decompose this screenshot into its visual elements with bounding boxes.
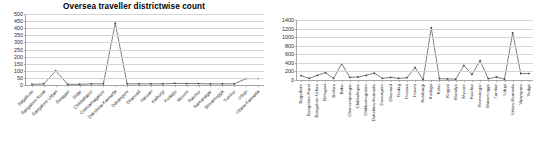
y-tickmark — [295, 63, 297, 64]
data-point-marker — [316, 74, 318, 76]
gridline — [26, 50, 264, 51]
x-tick-label: Uttara-Kannada — [509, 84, 514, 115]
y-tickmark — [295, 29, 297, 30]
y-tickmark — [24, 42, 26, 43]
gridline — [26, 28, 264, 29]
x-tickmark — [139, 85, 140, 87]
y-tickmark — [295, 46, 297, 47]
gridline — [297, 46, 533, 47]
y-tick-label: 400 — [285, 60, 294, 66]
y-tick-label: 0 — [20, 82, 23, 88]
x-tick-label: Shivamogga — [204, 89, 225, 110]
x-tick-label: Kalburgi — [150, 89, 165, 104]
x-tickmark — [358, 80, 359, 82]
data-point-marker — [495, 76, 497, 78]
x-tickmark — [246, 85, 247, 87]
left-chart-title: Oversea traveller districtwise count — [0, 2, 268, 11]
x-tick-label: Dakshina-Kannada — [87, 89, 118, 120]
y-tickmark — [24, 21, 26, 22]
gridline — [297, 29, 533, 30]
x-tickmark — [415, 80, 416, 82]
x-tick-label: Chikkamagalore — [79, 89, 106, 116]
x-tickmark — [529, 80, 530, 82]
right-plot-area — [296, 20, 533, 81]
x-tickmark — [317, 80, 318, 82]
x-tickmark — [407, 80, 408, 82]
x-tickmark — [513, 80, 514, 82]
y-tick-label: 500 — [14, 11, 23, 17]
y-tick-label: 200 — [14, 54, 23, 60]
x-tickmark — [521, 80, 522, 82]
gridline — [26, 57, 264, 58]
x-tickmark — [32, 85, 33, 87]
x-tick-label: Bangalore Urban — [31, 89, 59, 117]
x-tickmark — [91, 85, 92, 87]
x-tickmark — [342, 80, 343, 82]
left-chart-panel: Oversea traveller districtwise count 050… — [0, 0, 268, 148]
x-tick-label: Davangere — [379, 84, 384, 105]
y-tickmark — [24, 78, 26, 79]
x-tickmark — [496, 80, 497, 82]
gridline — [297, 71, 533, 72]
x-tick-label: Vijayapura — [517, 84, 522, 105]
x-tickmark — [210, 85, 211, 87]
y-tickmark — [24, 28, 26, 29]
x-tick-label: Hassan — [139, 89, 153, 103]
y-tickmark — [295, 71, 297, 72]
x-tick-label: Bangalore-Rural — [306, 84, 311, 116]
y-tickmark — [295, 37, 297, 38]
data-point-marker — [357, 76, 359, 78]
x-tick-label: Haveri — [412, 84, 417, 97]
x-tick-label: Kolar — [436, 84, 441, 94]
gridline — [26, 64, 264, 65]
x-tick-label: Ramanagar — [477, 84, 482, 107]
x-tick-label: Bagalkote — [298, 84, 303, 104]
x-tick-label: Davangere — [111, 89, 130, 108]
x-tickmark — [439, 80, 440, 82]
y-tick-label: 1400 — [282, 17, 294, 23]
left-y-axis-labels: 050100150200250300350400450500 — [2, 14, 23, 85]
x-tick-label: Chikkamagalore — [363, 84, 368, 116]
x-tick-label: Dharwad — [387, 84, 392, 102]
x-tickmark — [44, 85, 45, 87]
x-tickmark — [222, 85, 223, 87]
y-tickmark — [24, 85, 26, 86]
x-tickmark — [399, 80, 400, 82]
x-tick-label: Shivamogga — [485, 84, 490, 108]
x-tickmark — [56, 85, 57, 87]
right-chart-panel: 0200400600800100012001400 BagalkoteBanga… — [268, 0, 539, 148]
x-tick-label: Tumkur — [223, 89, 237, 103]
x-tick-label: Bidar — [71, 89, 82, 100]
x-tick-label: Bidar — [338, 84, 343, 94]
x-tickmark — [103, 85, 104, 87]
x-tick-label: Raichur — [468, 84, 473, 99]
x-tick-label: Bangalore Rural — [20, 89, 47, 116]
x-tickmark — [301, 80, 302, 82]
data-point-marker — [528, 72, 530, 74]
y-tickmark — [24, 57, 26, 58]
x-tick-label: Belagavi — [54, 89, 70, 105]
x-tickmark — [68, 85, 69, 87]
x-tick-label: Tumkur — [493, 84, 498, 99]
left-plot-area — [25, 14, 264, 86]
y-tickmark — [295, 20, 297, 21]
x-tick-label: Kalaburgi — [420, 84, 425, 103]
x-tickmark — [456, 80, 457, 82]
x-tickmark — [175, 85, 176, 87]
screenshot-root: Oversea traveller districtwise count 050… — [0, 0, 539, 148]
x-tickmark — [258, 85, 259, 87]
data-point-marker — [520, 72, 522, 74]
gridline — [297, 37, 533, 38]
x-tickmark — [325, 80, 326, 82]
y-tick-label: 150 — [14, 61, 23, 67]
x-tickmark — [423, 80, 424, 82]
x-tickmark — [472, 80, 473, 82]
y-tick-label: 1200 — [282, 26, 294, 32]
x-tickmark — [431, 80, 432, 82]
x-tick-label: Gadag — [395, 84, 400, 97]
y-tick-label: 200 — [285, 68, 294, 74]
x-tick-label: Koppal — [444, 84, 449, 98]
x-tick-label: Bangalore-Urban — [314, 84, 319, 117]
data-point-marker — [365, 74, 367, 76]
x-tickmark — [151, 85, 152, 87]
